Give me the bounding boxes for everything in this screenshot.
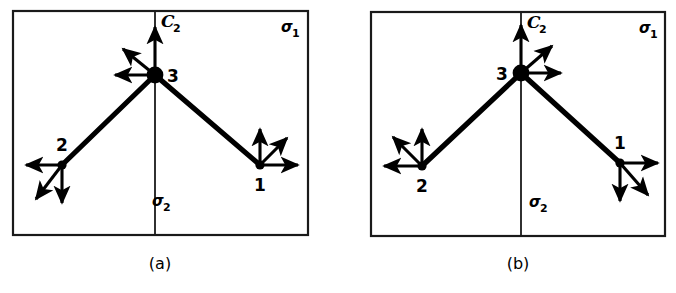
- panel-b-atom2-vector-upleft: [393, 137, 422, 166]
- panel-a-c2-label-subscript: 2: [173, 22, 181, 35]
- panel-a-atom-1: [255, 160, 264, 169]
- panel-b-frame: [371, 12, 665, 236]
- panel-a-sigma2-label-subscript: 2: [163, 201, 171, 214]
- panel-a-bond-3-1: [155, 75, 260, 165]
- panel-b-atom-1: [615, 158, 624, 167]
- panel-a-atom1-vector-upright: [260, 138, 287, 165]
- panel-b-c2-label-subscript: 2: [539, 23, 547, 36]
- panel-b-bond-3-1: [521, 73, 620, 163]
- panel-a-atom-3: [147, 67, 164, 84]
- panel-b-atom-2: [417, 161, 426, 170]
- panel-a-sigma1-label-subscript: 1: [292, 27, 300, 40]
- panel-a-atom-label-3: 3: [167, 66, 179, 86]
- figure-container: 3 2 1 C 2 σ 1 σ 2 (a): [0, 0, 676, 293]
- panel-a-caption: (a): [149, 254, 171, 273]
- panel-b-sigma2-label-subscript: 2: [540, 202, 548, 215]
- panel-a-atom2-vector-downleft: [36, 165, 62, 199]
- panel-a-atom-label-2: 2: [56, 135, 68, 155]
- panel-b-atom-label-1: 1: [614, 133, 626, 153]
- panel-a-bond-3-2: [62, 75, 155, 165]
- panel-a-atom-2: [57, 160, 66, 169]
- panel-a-atom-label-1: 1: [254, 175, 266, 195]
- panel-a: 3 2 1 C 2 σ 1 σ 2 (a): [13, 11, 308, 273]
- panel-b-atom-label-3: 3: [496, 64, 508, 84]
- panel-b-atom-3: [513, 65, 530, 82]
- panel-b-sigma1-label-subscript: 1: [650, 28, 658, 41]
- panel-b-caption: (b): [507, 254, 530, 273]
- panel-b-atom-label-2: 2: [416, 176, 428, 196]
- panel-b-atom1-vector-downright: [620, 163, 648, 195]
- vibration-mode-figure: 3 2 1 C 2 σ 1 σ 2 (a): [0, 0, 676, 293]
- panel-b-bond-3-2: [422, 73, 521, 166]
- panel-b: 3 2 1 C 2 σ 1 σ 2 (b): [371, 12, 665, 273]
